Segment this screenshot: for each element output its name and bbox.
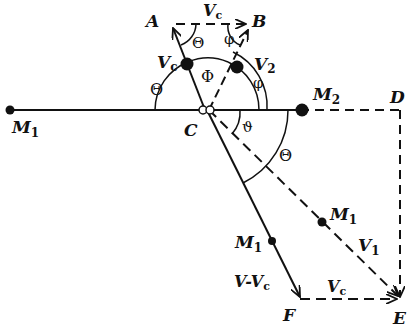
- arc-vartheta: [232, 110, 240, 134]
- mass-m1-left-dot: [6, 106, 15, 115]
- label-v-minus-vc: V-Vc: [234, 272, 270, 293]
- mass-vc-dot: [181, 58, 194, 71]
- label-vc-bottom: Vc: [327, 277, 346, 298]
- label-phi-top: φ: [224, 30, 235, 48]
- mass-m2-dot: [296, 104, 309, 117]
- label-vc-top: Vc: [203, 1, 222, 22]
- label-theta-left: Θ: [150, 80, 163, 99]
- vector-cf: [207, 110, 300, 297]
- label-point-d: D: [389, 87, 405, 107]
- mass-m1-ce-dot: [318, 218, 327, 227]
- collision-point-c-right: [206, 106, 214, 114]
- arc-Phi-center: [188, 58, 228, 62]
- vector-ce: [209, 110, 398, 296]
- label-v2: V2: [254, 54, 276, 76]
- label-v1: V1: [358, 235, 380, 258]
- label-point-c: C: [184, 120, 198, 140]
- label-vc-on-ca: Vc: [157, 52, 178, 74]
- label-point-b: B: [251, 11, 266, 31]
- label-theta-lower: Θ: [279, 146, 292, 165]
- label-m1-ce: M1: [329, 204, 357, 227]
- collision-diagram: A B C D E F M1 M2 M1 M1 Vc Vc V2 V1 V-Vc…: [0, 0, 417, 333]
- label-theta-top: Θ: [192, 34, 204, 52]
- label-vartheta: ϑ: [242, 118, 253, 136]
- label-point-a: A: [144, 11, 159, 31]
- label-point-e: E: [392, 308, 407, 328]
- label-m1-left: M1: [11, 117, 39, 140]
- label-m1-cf: M1: [234, 232, 262, 255]
- mass-m1-cf-dot: [268, 237, 276, 245]
- label-phi-right: φ: [253, 74, 264, 92]
- mass-v2-dot: [231, 61, 244, 74]
- label-Phi-center: Φ: [201, 67, 214, 86]
- label-m2: M2: [312, 84, 340, 107]
- label-point-f: F: [282, 305, 297, 325]
